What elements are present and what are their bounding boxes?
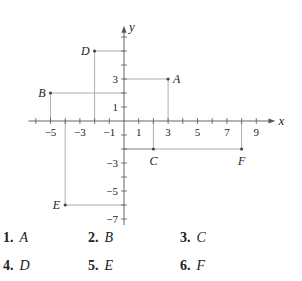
point-label-b: B xyxy=(38,86,46,100)
exercise-4: 4.D xyxy=(3,258,30,274)
exercise-6: 6.F xyxy=(180,258,205,274)
exercise-3: 3.C xyxy=(180,230,206,246)
y-tick-label: −5 xyxy=(106,185,118,197)
x-tick-label: 7 xyxy=(224,126,230,138)
y-tick-label: 1 xyxy=(113,101,119,113)
x-axis-arrow-icon xyxy=(268,119,275,124)
y-tick-label: 3 xyxy=(113,73,119,85)
exercise-2: 2.B xyxy=(88,230,113,246)
x-tick-label: 5 xyxy=(195,126,201,138)
point-b xyxy=(49,91,52,94)
point-a xyxy=(167,77,170,80)
point-label-d: D xyxy=(80,44,90,58)
point-label-f: F xyxy=(237,154,246,168)
exercise-5: 5.E xyxy=(88,258,113,274)
y-tick-label: −7 xyxy=(106,213,118,225)
x-tick-label: −3 xyxy=(74,126,86,138)
points: ABCDEF xyxy=(38,44,246,212)
point-f xyxy=(240,147,243,150)
exercise-1: 1.A xyxy=(3,230,28,246)
x-tick-label: 3 xyxy=(165,126,171,138)
x-tick-label: 1 xyxy=(136,126,142,138)
point-d xyxy=(93,49,96,52)
x-tick-label: −5 xyxy=(45,126,57,138)
point-e xyxy=(64,203,67,206)
y-axis-label: y xyxy=(127,19,135,34)
point-label-a: A xyxy=(172,72,181,86)
x-tick-label: −1 xyxy=(103,126,115,138)
point-label-e: E xyxy=(52,198,61,212)
point-c xyxy=(152,147,155,150)
y-tick-label: −3 xyxy=(106,157,118,169)
axes: xy xyxy=(28,19,284,225)
point-label-c: C xyxy=(149,154,158,168)
y-axis-arrow-icon xyxy=(122,26,127,33)
x-axis-label: x xyxy=(277,113,284,128)
x-tick-label: 9 xyxy=(254,126,260,138)
coordinate-plane: xy −5−3−11357931−3−5−7 ABCDEF xyxy=(0,0,302,225)
